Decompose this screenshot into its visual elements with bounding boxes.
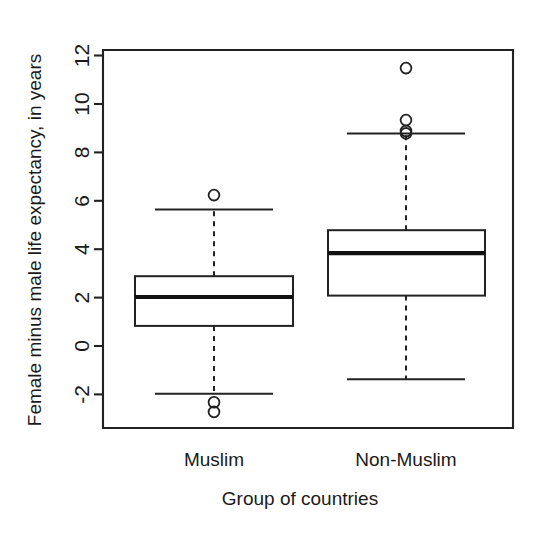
boxplot-svg: 12 10 8 6 4 2 0 -2 Female minus male lif… — [0, 0, 551, 534]
box-group-non-muslim — [328, 63, 485, 380]
y-tick-label-4: 4 — [70, 243, 93, 255]
outlier-point — [209, 190, 220, 201]
box-group-muslim — [135, 190, 293, 418]
y-axis-tick-labels: 12 10 8 6 4 2 0 -2 — [70, 44, 93, 404]
box-muslim — [135, 276, 293, 326]
x-axis-title: Group of countries — [222, 488, 378, 509]
boxplot-figure: 12 10 8 6 4 2 0 -2 Female minus male lif… — [0, 0, 551, 534]
y-tick-label-8: 8 — [70, 147, 93, 159]
y-tick-label-0: 0 — [70, 340, 93, 352]
y-axis-title: Female minus male life expectancy, in ye… — [24, 54, 45, 426]
y-tick-label-6: 6 — [70, 195, 93, 207]
box-non-muslim — [328, 230, 485, 295]
y-tick-label--2: -2 — [70, 385, 93, 404]
outlier-point — [401, 115, 412, 126]
y-tick-label-12: 12 — [70, 44, 93, 67]
y-tick-label-2: 2 — [70, 292, 93, 304]
outlier-point — [401, 63, 412, 74]
y-axis-ticks — [94, 56, 103, 395]
x-category-label-muslim: Muslim — [184, 449, 244, 470]
y-tick-label-10: 10 — [70, 92, 93, 115]
x-category-label-non-muslim: Non-Muslim — [355, 449, 456, 470]
